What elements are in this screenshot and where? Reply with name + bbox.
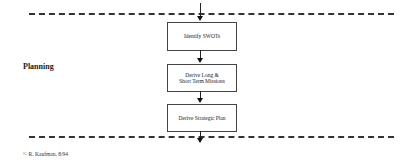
top-dashed-boundary <box>29 13 394 15</box>
box-label: Derive Strategic Plan <box>178 115 225 122</box>
box-label: Identify SWOTs <box>184 33 220 40</box>
arrow-down-icon <box>197 58 203 63</box>
arrow-down-icon <box>197 98 203 103</box>
section-label: Planning <box>23 62 54 71</box>
arrow-down-icon <box>197 16 203 21</box>
box-label: Derive Long & Short Term Missions <box>179 72 225 85</box>
box-identify-swots: Identify SWOTs <box>167 22 237 51</box>
bottom-dashed-boundary <box>29 136 394 138</box>
box-derive-missions: Derive Long & Short Term Missions <box>167 64 237 92</box>
connector-line <box>200 3 201 17</box>
box-derive-strategic-plan: Derive Strategic Plan <box>167 104 237 132</box>
copyright-credit: © R. Kaufman, 8/94 <box>23 151 68 157</box>
arrow-down-icon <box>197 138 203 143</box>
